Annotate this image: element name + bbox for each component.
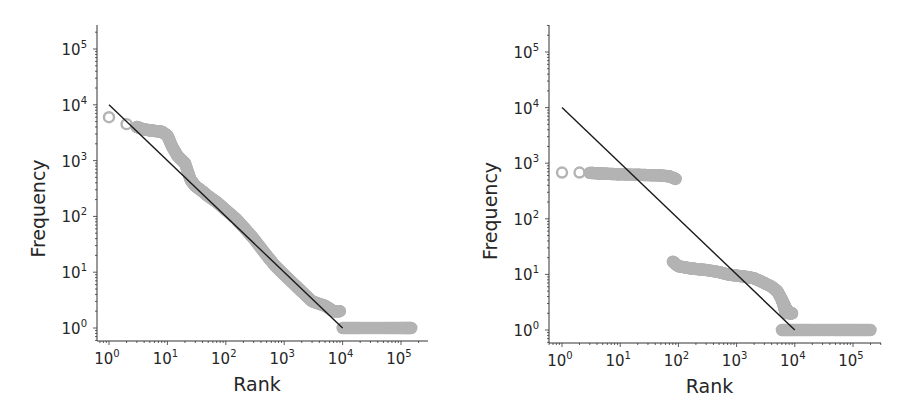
data-point — [104, 112, 114, 122]
x-axis-title: Rank — [686, 375, 733, 397]
x-tick-label: 102 — [211, 348, 236, 368]
y-tick-label: 104 — [514, 98, 539, 118]
y-tick-label: 105 — [514, 42, 539, 62]
x-tick-label: 100 — [547, 350, 572, 370]
x-axis-title: Rank — [233, 373, 280, 395]
y-axis-title: Frequency — [479, 162, 501, 260]
y-tick-label: 101 — [514, 264, 539, 284]
y-tick-label: 100 — [514, 320, 539, 340]
data-cloud — [137, 127, 340, 311]
data-point — [575, 168, 585, 178]
x-tick-label: 105 — [386, 348, 411, 368]
fit-line — [562, 108, 795, 330]
x-tick-label: 101 — [605, 350, 630, 370]
y-tick-label: 102 — [514, 209, 539, 229]
x-tick-label: 103 — [722, 350, 747, 370]
x-tick-label: 100 — [94, 348, 119, 368]
y-tick-label: 103 — [514, 153, 539, 173]
x-tick-label: 101 — [153, 348, 178, 368]
data-point — [557, 168, 567, 178]
figure-canvas: 100101102103104105100101102103104105Rank… — [0, 0, 914, 415]
right-panel: 100101102103104105100101102103104105Rank… — [479, 25, 881, 397]
data-markers — [557, 168, 876, 335]
x-tick-label: 103 — [269, 348, 294, 368]
left-panel: 100101102103104105100101102103104105Rank… — [27, 25, 428, 395]
x-tick-label: 104 — [328, 348, 353, 368]
x-tick-label: 104 — [780, 350, 805, 370]
x-tick-label: 105 — [838, 350, 863, 370]
y-axis-title: Frequency — [27, 159, 49, 257]
ticks — [545, 25, 881, 347]
ticks — [93, 32, 419, 345]
y-tick-label: 101 — [62, 262, 87, 282]
fit-line — [109, 105, 343, 328]
x-tick-label: 102 — [664, 350, 689, 370]
y-tick-label: 104 — [62, 95, 87, 115]
y-tick-label: 105 — [62, 39, 87, 59]
y-tick-label: 103 — [62, 151, 87, 171]
y-tick-label: 100 — [62, 318, 87, 338]
data-cloud — [782, 300, 792, 314]
y-tick-label: 102 — [62, 206, 87, 226]
